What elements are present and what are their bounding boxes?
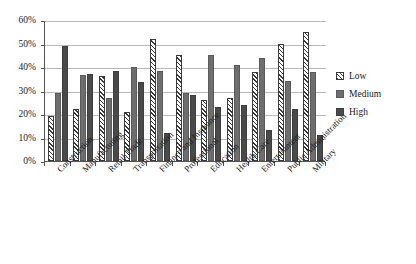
legend-item: Medium [336, 86, 414, 102]
bar-high [113, 71, 119, 161]
bar-low [303, 32, 309, 161]
y-axis-label: 20% [2, 110, 36, 120]
y-axis-label: 0% [2, 157, 36, 167]
bar-high [138, 82, 144, 161]
legend-label: Low [349, 71, 366, 81]
y-axis-tick [41, 21, 45, 22]
x-axis-tick [44, 162, 45, 166]
y-axis-label: 60% [2, 16, 36, 26]
y-axis-tick [41, 139, 45, 140]
bar-group [48, 20, 68, 161]
legend-swatch-icon [336, 72, 344, 80]
legend-label: Medium [349, 89, 381, 99]
legend-label: High [349, 107, 368, 117]
bar-medium [55, 93, 61, 161]
bar-chart: 0%10%20%30%40%50%60% ConstructionManufac… [0, 0, 416, 264]
legend-item: High [336, 104, 414, 120]
y-axis-tick [41, 92, 45, 93]
y-axis-label: 50% [2, 40, 36, 50]
bar-high [241, 105, 247, 161]
bar-group [227, 20, 247, 161]
y-axis-label: 30% [2, 87, 36, 97]
bar-high [62, 46, 68, 161]
y-axis-tick [41, 45, 45, 46]
y-axis-label: 40% [2, 63, 36, 73]
bar-high [87, 74, 93, 161]
bar-low [48, 116, 54, 161]
legend-swatch-icon [336, 90, 344, 98]
y-axis-label: 10% [2, 134, 36, 144]
chart-legend: LowMediumHigh [336, 68, 414, 122]
legend-item: Low [336, 68, 414, 84]
y-axis-tick [41, 68, 45, 69]
legend-swatch-icon [336, 108, 344, 116]
y-axis-tick [41, 115, 45, 116]
